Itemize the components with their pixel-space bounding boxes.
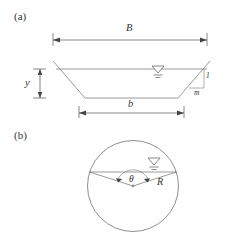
water-surface-symbol-b <box>148 158 160 170</box>
panel-a-group <box>33 33 210 118</box>
water-surface-symbol-a <box>152 66 164 78</box>
side-slope-triangle <box>189 69 204 88</box>
dim-arrow-right-b <box>177 111 184 116</box>
figure-svg <box>0 0 236 242</box>
panel-b-label: (b) <box>14 130 27 141</box>
dim-arrow-top-y <box>38 69 43 75</box>
figure-container: (a) B y b 1 m (b) θ R <box>0 0 236 242</box>
trapezoid-left-side <box>53 61 85 98</box>
slope-horizontal-label: m <box>194 89 199 97</box>
radius-line-left <box>90 172 134 186</box>
dim-arrow-left-B <box>53 38 60 43</box>
top-width-label: B <box>126 23 132 34</box>
trapezoid-outline <box>53 61 210 98</box>
panel-a-label: (a) <box>14 11 26 22</box>
bottom-width-label: b <box>128 99 133 110</box>
water-triangle-icon-b <box>148 158 160 165</box>
radius-label: R <box>157 177 163 187</box>
water-triangle-icon-a <box>152 66 164 73</box>
dim-arrow-bottom-y <box>38 92 43 98</box>
dim-arrow-left-b <box>79 111 86 116</box>
radius-line-right <box>133 172 177 186</box>
panel-b-group <box>88 141 179 232</box>
slope-vertical-label: 1 <box>206 72 210 80</box>
angle-label: θ <box>129 175 134 185</box>
depth-dimension <box>33 69 46 98</box>
top-width-dimension <box>53 33 207 46</box>
depth-label: y <box>25 78 30 89</box>
dim-arrow-right-B <box>200 38 207 43</box>
